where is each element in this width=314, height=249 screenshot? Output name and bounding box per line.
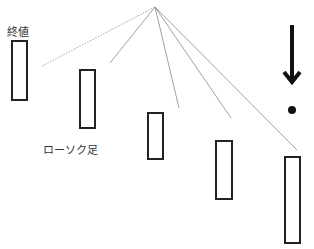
- dot-icon: [288, 106, 296, 114]
- connector-line: [155, 7, 297, 150]
- connector-line: [155, 7, 179, 108]
- candlestick-body: [12, 41, 27, 100]
- connector-line: [42, 7, 155, 66]
- connector-line: [110, 7, 155, 63]
- candlestick-body: [216, 141, 232, 199]
- diagram-canvas: [0, 0, 314, 249]
- candlestick-body: [80, 70, 95, 128]
- down-arrow-icon: [284, 25, 300, 82]
- candlestick-body: [148, 113, 163, 159]
- candlestick-body: [285, 157, 300, 243]
- candlestick-label: ローソク足: [43, 141, 98, 157]
- connector-line: [155, 7, 231, 118]
- close-price-label: 終値: [7, 23, 29, 39]
